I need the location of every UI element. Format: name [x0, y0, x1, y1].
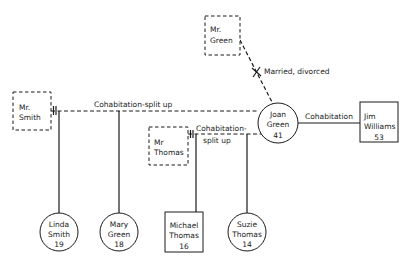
svg-text:Thomas: Thomas: [153, 148, 184, 157]
svg-text:Green: Green: [108, 230, 131, 239]
node-michael-thomas: Michael Thomas 16: [165, 212, 203, 252]
svg-text:Linda: Linda: [49, 220, 69, 229]
genogram-diagram: Married, divorced Cohabitation-split up …: [0, 0, 411, 266]
node-mr-green: Mr. Green: [205, 16, 240, 55]
svg-text:Joan: Joan: [269, 110, 286, 119]
svg-text:Mr.: Mr.: [19, 103, 30, 112]
node-jim-williams: Jim Williams 53: [360, 102, 398, 142]
svg-text:Mr: Mr: [154, 138, 164, 147]
svg-text:Green: Green: [267, 120, 290, 129]
smith-cohabitation-label: Cohabitation-split up: [94, 100, 173, 109]
node-mr-smith: Mr. Smith: [13, 92, 51, 130]
svg-text:Thomas: Thomas: [231, 230, 262, 239]
svg-text:Michael: Michael: [170, 221, 199, 230]
svg-text:Thomas: Thomas: [168, 231, 199, 240]
thomas-cohabitation-label-1: Cohabitation-: [196, 124, 247, 133]
node-linda-smith: Linda Smith 19: [40, 213, 78, 251]
svg-text:Mary: Mary: [110, 220, 129, 229]
node-joan-green: Joan Green 41: [258, 103, 298, 143]
joan-jim-cohabitation-label: Cohabitation: [305, 112, 353, 121]
svg-text:53: 53: [374, 133, 384, 142]
svg-text:Mr.: Mr.: [210, 25, 221, 34]
svg-text:Suzie: Suzie: [237, 220, 258, 229]
svg-text:Williams: Williams: [364, 122, 395, 131]
svg-text:Smith: Smith: [48, 230, 70, 239]
svg-text:19: 19: [54, 240, 64, 249]
node-suzie-thomas: Suzie Thomas 14: [228, 213, 266, 251]
married-divorced-label: Married, divorced: [264, 67, 330, 76]
svg-text:41: 41: [273, 131, 283, 140]
svg-text:18: 18: [114, 240, 124, 249]
divorce-cross-icon: [252, 67, 261, 77]
thomas-cohabitation-label-2: split up: [203, 136, 231, 145]
node-mary-green: Mary Green 18: [100, 213, 138, 251]
svg-text:16: 16: [179, 242, 189, 251]
svg-text:Jim: Jim: [363, 112, 376, 121]
node-mr-thomas: Mr Thomas: [149, 127, 188, 165]
svg-text:Smith: Smith: [19, 113, 41, 122]
svg-text:Green: Green: [210, 36, 233, 45]
svg-text:14: 14: [242, 240, 252, 249]
